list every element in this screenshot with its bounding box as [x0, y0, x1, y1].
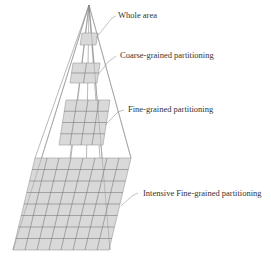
plane-intensive	[13, 158, 131, 250]
svg-text:Coarse-grained partitioning: Coarse-grained partitioning	[120, 50, 214, 60]
label-intensive: Intensive Fine-grained partitioning	[121, 188, 262, 206]
plane-fine	[59, 100, 110, 145]
svg-text:Whole area: Whole area	[118, 10, 157, 20]
svg-text:Intensive Fine-grained partiti: Intensive Fine-grained partitioning	[143, 188, 262, 198]
svg-text:Fine-grained partitioning: Fine-grained partitioning	[128, 104, 214, 114]
label-whole-area: Whole area	[96, 10, 157, 38]
pyramid-diagram: Whole area Coarse-grained partitioning F…	[0, 0, 271, 263]
label-coarse: Coarse-grained partitioning	[98, 50, 214, 75]
plane-whole-area	[80, 33, 98, 45]
